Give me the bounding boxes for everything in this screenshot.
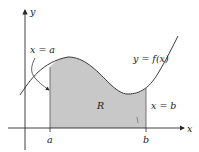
- y-axis-label: y: [29, 6, 36, 17]
- pointer-arrow-a: [32, 58, 49, 90]
- x-axis-label: x: [187, 123, 193, 134]
- curve-label: y = f(x): [132, 53, 169, 64]
- right-bound-label: x = b: [151, 100, 176, 111]
- shaded-region: [50, 57, 146, 128]
- tick-a-label: a: [47, 134, 53, 145]
- region-label: R: [96, 100, 104, 111]
- tick-b-label: b: [143, 134, 149, 145]
- left-bound-label: x = a: [30, 44, 55, 55]
- region-under-curve-diagram: y x y = f(x) x = a x = b R a b: [0, 0, 199, 152]
